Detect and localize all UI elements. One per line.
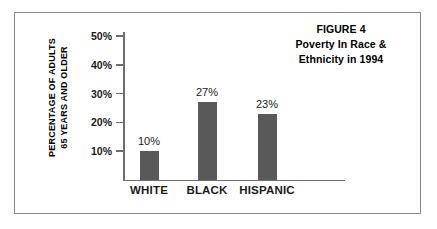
- bar[interactable]: [258, 114, 277, 180]
- bar-value-label: 27%: [182, 86, 232, 98]
- bar[interactable]: [140, 151, 159, 180]
- figure-container: FIGURE 4 Poverty In Race & Ethnicity in …: [0, 0, 437, 229]
- category-label: HISPANIC: [227, 184, 307, 196]
- bar-value-label: 10%: [124, 135, 174, 147]
- bar-value-label: 23%: [242, 98, 292, 110]
- bar[interactable]: [198, 102, 217, 180]
